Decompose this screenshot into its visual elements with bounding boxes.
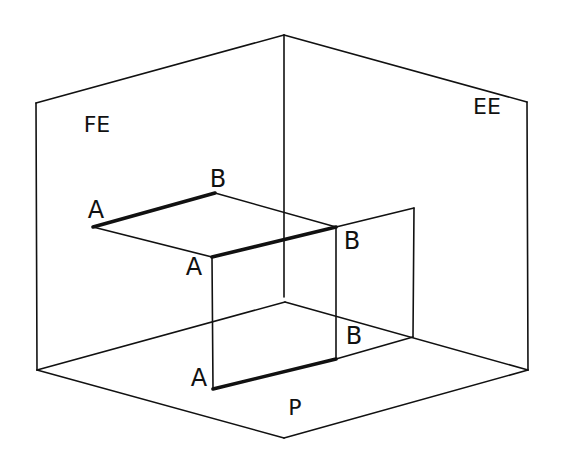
floor-right-back <box>285 302 528 370</box>
segment-ab-frontal-projection <box>93 193 215 227</box>
floor-right-front <box>284 370 528 438</box>
segment-ab-horizontal-projection <box>213 359 336 389</box>
fe-top-edge <box>36 35 284 103</box>
ee-plane-right <box>413 208 414 337</box>
segment-ab-space <box>212 227 336 257</box>
floor-left-back <box>37 302 285 370</box>
thin-lines <box>36 35 528 438</box>
fe-left-edge <box>36 103 37 370</box>
label-b-middle: B <box>344 229 360 253</box>
label-b-lower: B <box>346 324 362 348</box>
label-p: P <box>288 397 301 419</box>
mid-a-to-bottom-a <box>212 257 213 389</box>
thick-lines <box>93 193 336 389</box>
label-ee: EE <box>473 96 501 118</box>
ee-plane-top <box>336 208 414 227</box>
label-a-upper: A <box>88 198 104 222</box>
upper-b-to-mid-b <box>215 193 336 227</box>
label-b-upper: B <box>210 167 226 191</box>
ee-right-edge <box>527 102 528 370</box>
projection-diagram <box>0 0 567 463</box>
ee-top-edge <box>284 35 527 102</box>
label-a-lower: A <box>191 366 207 390</box>
label-fe: FE <box>84 114 111 136</box>
label-a-middle: A <box>186 255 202 279</box>
